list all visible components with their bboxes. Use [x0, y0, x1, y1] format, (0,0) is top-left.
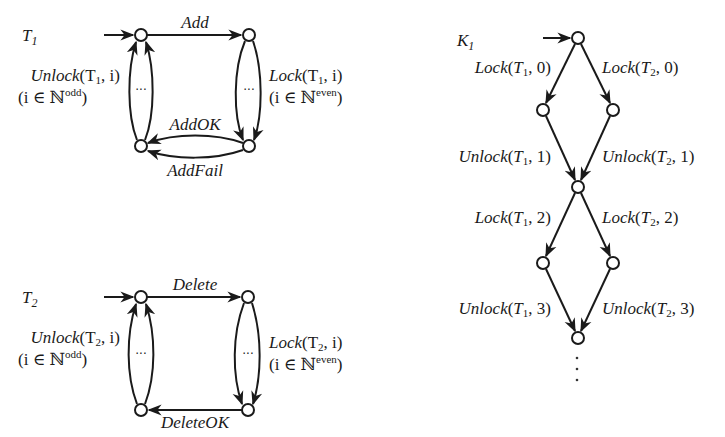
k1-state-right-2	[607, 257, 619, 269]
t2-label-delete: Delete	[172, 275, 218, 294]
t2-label-unlock: Unlock(T2, i)	[30, 328, 120, 348]
t2-label-lock: Lock(T2, i)	[268, 333, 342, 353]
t1-cond-odd: (i ∈ ℕodd)	[18, 86, 87, 107]
k1-label-unlock-t1-1: Unlock(T1, 1)	[459, 147, 551, 167]
t2-cond-odd: (i ∈ ℕodd)	[18, 348, 87, 369]
t2-cond-even: (i ∈ ℕeven)	[269, 353, 342, 374]
k1-label-lock-t1-0: Lock(T1, 0)	[474, 58, 551, 78]
k1-label-unlock-t2-1: Unlock(T2, 1)	[602, 147, 694, 167]
automaton-t2: T2 Delete ··· ··· DeleteOK Unlock(T2, i)…	[18, 275, 342, 432]
t2-right-ellipsis: ···	[242, 347, 253, 361]
t1-right-ellipsis: ···	[243, 83, 254, 97]
t1-label-addok: AddOK	[169, 115, 223, 134]
t1-label-unlock: Unlock(T1, i)	[30, 66, 120, 86]
k1-label-unlock-t2-3: Unlock(T2, 3)	[602, 299, 694, 319]
t2-label-deleteok: DeleteOK	[160, 413, 231, 432]
t1-label-add: Add	[180, 13, 209, 32]
t2-state-top-right	[242, 291, 254, 303]
t1-state-bottom-left	[135, 140, 147, 152]
t1-label-lock: Lock(T1, i)	[268, 66, 342, 86]
k1-state-left-1	[537, 104, 549, 116]
t1-edge-addok	[148, 136, 243, 144]
k1-state-right-1	[607, 104, 619, 116]
k1-label-unlock-t1-3: Unlock(T1, 3)	[459, 299, 551, 319]
k1-title: K1	[456, 31, 474, 53]
t2-left-ellipsis: ···	[135, 347, 146, 361]
t2-state-bottom-right	[242, 404, 254, 416]
t1-state-bottom-right	[243, 140, 255, 152]
t2-title: T2	[22, 288, 37, 310]
t2-state-bottom-left	[135, 404, 147, 416]
k1-label-lock-t2-2: Lock(T2, 2)	[601, 208, 678, 228]
automaton-k1: K1 Lock(T1, 0) Lock(T2, 0) Unlock(T1, 1)…	[456, 31, 694, 381]
k1-state-left-2	[537, 257, 549, 269]
automaton-t1: T1 Add ··· ··· AddOK AddFail Unlock(T1, …	[18, 13, 342, 180]
k1-state-initial	[572, 32, 584, 44]
t1-state-top-right	[243, 29, 255, 41]
k1-label-lock-t1-2: Lock(T1, 2)	[474, 208, 551, 228]
t2-state-initial	[135, 291, 147, 303]
automata-diagram: T1 Add ··· ··· AddOK AddFail Unlock(T1, …	[0, 0, 725, 437]
t1-title: T1	[22, 26, 37, 48]
k1-state-mid-1	[572, 181, 584, 193]
t1-state-initial	[135, 29, 147, 41]
k1-state-mid-2	[572, 332, 584, 344]
k1-label-lock-t2-0: Lock(T2, 0)	[601, 58, 678, 78]
t1-left-ellipsis: ···	[135, 83, 146, 97]
k1-continuation-dots	[576, 357, 579, 382]
t1-edge-addfail	[148, 150, 243, 158]
t1-label-addfail: AddFail	[166, 161, 223, 180]
t1-cond-even: (i ∈ ℕeven)	[269, 86, 342, 107]
